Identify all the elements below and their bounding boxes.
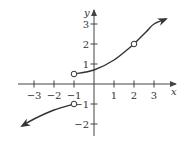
x-tick-label: −3 (27, 90, 42, 101)
x-axis-label: x (171, 86, 177, 97)
curve-left-branch (22, 104, 74, 126)
x-tick-label: 3 (151, 90, 157, 101)
y-tick-label: 1 (83, 59, 89, 70)
y-tick-label: 2 (83, 39, 89, 50)
x-tick-label: −2 (47, 90, 62, 101)
curve-right-branch (134, 19, 166, 44)
x-tick-label: 1 (111, 90, 117, 101)
y-axis-label: y (83, 7, 90, 18)
open-point (71, 101, 77, 107)
open-point (71, 71, 77, 77)
y-tick-label: 3 (83, 19, 89, 30)
y-tick-label: −2 (74, 119, 89, 130)
open-point (131, 41, 137, 47)
x-tick-label: 2 (131, 90, 137, 101)
function-graph: −3−2−1123321−1−2 x y (0, 0, 189, 145)
